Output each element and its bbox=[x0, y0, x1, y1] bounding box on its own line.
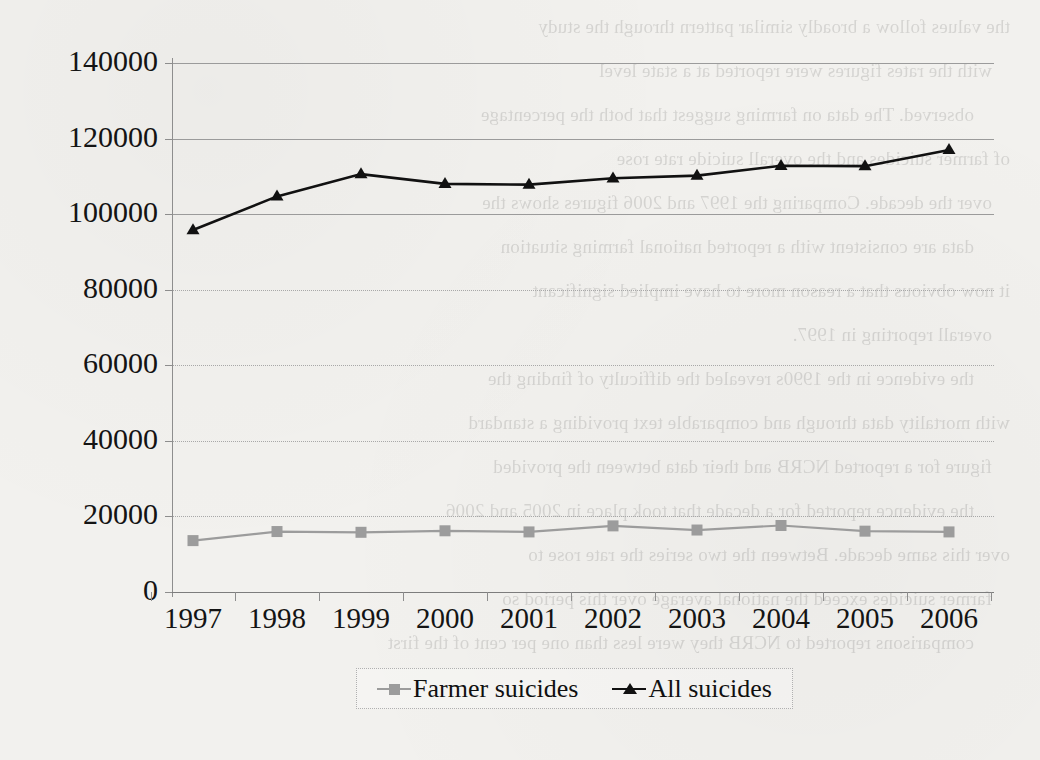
x-axis-tick bbox=[655, 592, 656, 601]
y-axis-tick-label: 40000 bbox=[83, 424, 158, 454]
data-point-marker[interactable] bbox=[692, 525, 703, 536]
x-axis-tick bbox=[403, 592, 404, 601]
y-axis-tick-label: 80000 bbox=[83, 273, 158, 303]
x-axis-tick-label: 1997 bbox=[151, 604, 235, 633]
x-axis-tick bbox=[487, 592, 488, 601]
x-axis-tick-label: 2006 bbox=[907, 604, 991, 633]
x-axis-tick bbox=[319, 592, 320, 601]
x-axis-tick-label: 1999 bbox=[319, 604, 403, 633]
x-axis-tick bbox=[739, 592, 740, 601]
x-axis-tick-label: 2004 bbox=[739, 604, 823, 633]
x-axis-tick-label: 1998 bbox=[235, 604, 319, 633]
x-axis-tick bbox=[991, 592, 992, 601]
data-point-marker[interactable] bbox=[440, 525, 451, 536]
suicides-line-chart: 020000400006000080000100000120000140000 … bbox=[0, 0, 1040, 760]
data-point-marker[interactable] bbox=[356, 527, 367, 538]
data-point-marker[interactable] bbox=[943, 143, 956, 154]
data-point-marker[interactable] bbox=[944, 526, 955, 537]
x-axis-tick-label: 2002 bbox=[571, 604, 655, 633]
data-point-marker[interactable] bbox=[775, 159, 788, 170]
x-axis-line bbox=[172, 592, 994, 593]
y-axis-tick-label: 120000 bbox=[68, 122, 158, 152]
x-axis-tick-label: 2005 bbox=[823, 604, 907, 633]
legend-item-farmer-suicides[interactable]: Farmer suicides bbox=[377, 674, 578, 704]
series-line-farmer-suicides bbox=[193, 525, 949, 540]
x-axis-tick bbox=[235, 592, 236, 601]
series-line-all-suicides bbox=[193, 150, 949, 230]
chart-legend: Farmer suicides All suicides bbox=[356, 668, 793, 709]
data-point-marker[interactable] bbox=[608, 520, 619, 531]
data-point-marker[interactable] bbox=[776, 520, 787, 531]
data-point-marker[interactable] bbox=[860, 526, 871, 537]
y-axis-tick-label: 60000 bbox=[83, 348, 158, 378]
x-axis-tick bbox=[151, 592, 152, 601]
data-point-marker[interactable] bbox=[272, 526, 283, 537]
data-point-marker[interactable] bbox=[524, 526, 535, 537]
legend-label-all-suicides: All suicides bbox=[648, 674, 772, 704]
plot-area bbox=[172, 63, 994, 592]
x-axis-tick bbox=[571, 592, 572, 601]
y-axis-line bbox=[172, 58, 173, 597]
x-axis-tick-label: 2000 bbox=[403, 604, 487, 633]
series-lines bbox=[172, 63, 994, 592]
legend-marker-square-icon bbox=[377, 682, 411, 696]
legend-item-all-suicides[interactable]: All suicides bbox=[612, 674, 772, 704]
legend-label-farmer-suicides: Farmer suicides bbox=[413, 674, 578, 704]
x-axis-tick-label: 2003 bbox=[655, 604, 739, 633]
data-point-marker[interactable] bbox=[355, 167, 368, 178]
legend-marker-triangle-icon bbox=[612, 682, 646, 696]
data-point-marker[interactable] bbox=[188, 535, 199, 546]
x-axis-tick bbox=[907, 592, 908, 601]
y-axis-tick-label: 20000 bbox=[83, 499, 158, 529]
y-axis-tick-label: 100000 bbox=[68, 197, 158, 227]
y-axis-tick-label: 140000 bbox=[68, 46, 158, 76]
x-axis-tick-label: 2001 bbox=[487, 604, 571, 633]
x-axis-tick bbox=[823, 592, 824, 601]
